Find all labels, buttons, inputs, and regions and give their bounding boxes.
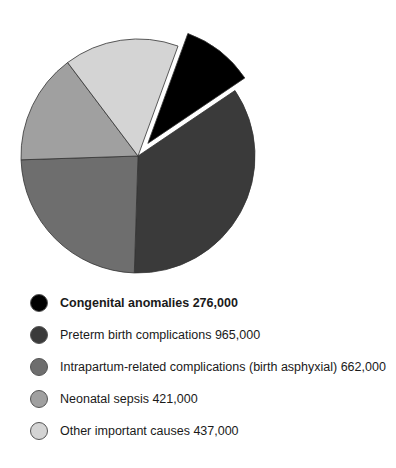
pie-slice-preterm — [134, 91, 255, 273]
legend: Congenital anomalies 276,000 Preterm bir… — [30, 287, 386, 447]
swatch-icon — [30, 294, 48, 312]
swatch-icon — [30, 326, 48, 344]
legend-label: Other important causes 437,000 — [60, 424, 239, 438]
legend-label: Preterm birth complications 965,000 — [60, 328, 260, 342]
pie-chart — [0, 0, 396, 280]
legend-item-preterm: Preterm birth complications 965,000 — [30, 319, 386, 351]
legend-label: Intrapartum-related complications (birth… — [60, 360, 386, 374]
swatch-icon — [30, 390, 48, 408]
legend-label: Neonatal sepsis 421,000 — [60, 392, 198, 406]
legend-label: Congenital anomalies 276,000 — [60, 296, 238, 310]
pie-slice-intrapartum-related — [21, 156, 138, 273]
legend-item-sepsis: Neonatal sepsis 421,000 — [30, 383, 386, 415]
legend-item-congenital: Congenital anomalies 276,000 — [30, 287, 386, 319]
legend-item-other: Other important causes 437,000 — [30, 415, 386, 447]
legend-item-intrapartum: Intrapartum-related complications (birth… — [30, 351, 386, 383]
swatch-icon — [30, 422, 48, 440]
swatch-icon — [30, 358, 48, 376]
